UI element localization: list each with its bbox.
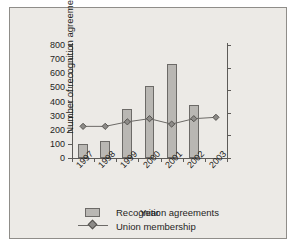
x-axis-tick (116, 158, 117, 162)
x-axis-tick (138, 158, 139, 162)
line-marker-icon (76, 220, 110, 232)
chart-frame: 0100200300400500600700800 6.577.588.59 1… (9, 7, 287, 239)
line-series-union-membership (72, 45, 227, 158)
x-axis-tick (205, 158, 206, 162)
bar-swatch-icon (76, 206, 110, 218)
legend-label: Union membership (116, 221, 196, 232)
right-axis-tick (227, 90, 231, 91)
plot-area: 0100200300400500600700800 6.577.588.59 1… (72, 45, 227, 158)
left-axis-tick-label: 0 (60, 154, 65, 163)
right-axis-tick (227, 135, 231, 136)
x-axis-tick (72, 158, 73, 162)
right-axis-tick (227, 68, 231, 69)
x-axis-tick (94, 158, 95, 162)
line-marker (102, 123, 108, 129)
right-axis-line (227, 43, 228, 160)
line-marker (213, 114, 219, 120)
x-axis-tick (161, 158, 162, 162)
legend-label: Recognition agreements (116, 207, 219, 218)
line-marker (124, 119, 130, 125)
line-marker (146, 116, 152, 122)
line-marker (169, 121, 175, 127)
chart-legend: Recognition agreements Union membership (76, 205, 246, 233)
chart-figure: 0100200300400500600700800 6.577.588.59 1… (0, 0, 296, 252)
legend-item-union-membership: Union membership (76, 219, 246, 233)
line-marker (191, 116, 197, 122)
right-axis-tick (227, 113, 231, 114)
left-axis-title: Number of recognition agreements (64, 0, 75, 136)
right-axis-tick (227, 45, 231, 46)
legend-item-recognition-agreements: Recognition agreements (76, 205, 246, 219)
x-axis-tick (183, 158, 184, 162)
left-axis-tick-label: 100 (50, 140, 65, 149)
x-axis-tick (227, 158, 228, 162)
line-marker (80, 123, 86, 129)
